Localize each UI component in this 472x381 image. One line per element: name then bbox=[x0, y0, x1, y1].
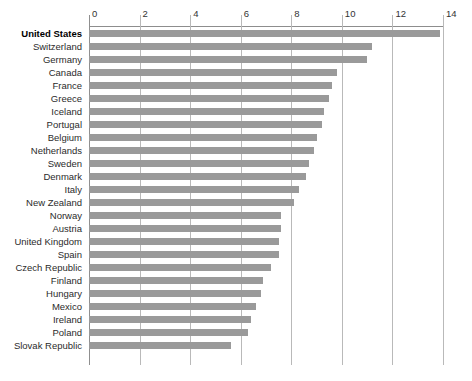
category-label: France bbox=[0, 79, 86, 92]
category-label: Iceland bbox=[0, 105, 86, 118]
bar bbox=[89, 264, 271, 271]
bar-row bbox=[89, 274, 443, 287]
bar-row bbox=[89, 209, 443, 222]
category-label: United Kingdom bbox=[0, 235, 86, 248]
bar bbox=[89, 121, 322, 128]
bar bbox=[89, 56, 367, 63]
bar bbox=[89, 134, 317, 141]
bar-row bbox=[89, 53, 443, 66]
bar-row bbox=[89, 66, 443, 79]
bar bbox=[89, 225, 281, 232]
bar bbox=[89, 342, 231, 349]
category-label: United States bbox=[0, 27, 86, 40]
plot-area: 02468101214 bbox=[89, 27, 443, 365]
bar-row bbox=[89, 27, 443, 40]
bar bbox=[89, 199, 294, 206]
category-label: Slovak Republic bbox=[0, 339, 86, 352]
bar-row bbox=[89, 92, 443, 105]
x-tick-label-0: 0 bbox=[89, 8, 97, 19]
x-tick-label-6: 6 bbox=[241, 8, 249, 19]
bar bbox=[89, 82, 332, 89]
bar bbox=[89, 108, 324, 115]
category-label: Poland bbox=[0, 326, 86, 339]
category-label: Spain bbox=[0, 248, 86, 261]
bar bbox=[89, 43, 372, 50]
category-label: Norway bbox=[0, 209, 86, 222]
bar-row bbox=[89, 222, 443, 235]
bar-row bbox=[89, 144, 443, 157]
bar bbox=[89, 186, 299, 193]
category-label: Austria bbox=[0, 222, 86, 235]
bar-row bbox=[89, 196, 443, 209]
bar-row bbox=[89, 157, 443, 170]
bar-row bbox=[89, 339, 443, 352]
category-label: Mexico bbox=[0, 300, 86, 313]
bar-row bbox=[89, 170, 443, 183]
category-label: Canada bbox=[0, 66, 86, 79]
bar-row bbox=[89, 326, 443, 339]
bar bbox=[89, 238, 279, 245]
bar bbox=[89, 251, 279, 258]
bar-chart: United StatesSwitzerlandGermanyCanadaFra… bbox=[0, 0, 472, 381]
category-axis: United StatesSwitzerlandGermanyCanadaFra… bbox=[0, 27, 86, 352]
category-label: Switzerland bbox=[0, 40, 86, 53]
bar bbox=[89, 303, 256, 310]
bar-row bbox=[89, 79, 443, 92]
category-label: Sweden bbox=[0, 157, 86, 170]
bar-row bbox=[89, 248, 443, 261]
bar bbox=[89, 329, 248, 336]
category-label: Denmark bbox=[0, 170, 86, 183]
bar-row bbox=[89, 235, 443, 248]
category-label: New Zealand bbox=[0, 196, 86, 209]
x-tick-label-12: 12 bbox=[392, 8, 406, 19]
category-label: Czech Republic bbox=[0, 261, 86, 274]
bar-row bbox=[89, 300, 443, 313]
bar bbox=[89, 30, 440, 37]
bar bbox=[89, 212, 281, 219]
bar-row bbox=[89, 313, 443, 326]
x-tick-label-8: 8 bbox=[291, 8, 299, 19]
bar-row bbox=[89, 183, 443, 196]
gridline-14 bbox=[443, 15, 444, 365]
bar bbox=[89, 290, 261, 297]
bar-row bbox=[89, 105, 443, 118]
bar bbox=[89, 147, 314, 154]
category-label: Hungary bbox=[0, 287, 86, 300]
x-tick-label-10: 10 bbox=[342, 8, 356, 19]
category-label: Italy bbox=[0, 183, 86, 196]
category-label: Germany bbox=[0, 53, 86, 66]
x-tick-label-4: 4 bbox=[190, 8, 198, 19]
bar bbox=[89, 69, 337, 76]
bar-row bbox=[89, 40, 443, 53]
bar bbox=[89, 160, 309, 167]
category-label: Portugal bbox=[0, 118, 86, 131]
bar-row bbox=[89, 287, 443, 300]
bar bbox=[89, 277, 263, 284]
bar-row bbox=[89, 131, 443, 144]
x-tick-label-2: 2 bbox=[140, 8, 148, 19]
category-label: Ireland bbox=[0, 313, 86, 326]
category-label: Belgium bbox=[0, 131, 86, 144]
bar-row bbox=[89, 118, 443, 131]
bar-row bbox=[89, 261, 443, 274]
bar bbox=[89, 95, 329, 102]
bar bbox=[89, 316, 251, 323]
x-tick-label-14: 14 bbox=[443, 8, 457, 19]
category-label: Netherlands bbox=[0, 144, 86, 157]
category-label: Finland bbox=[0, 274, 86, 287]
bar bbox=[89, 173, 306, 180]
category-label: Greece bbox=[0, 92, 86, 105]
